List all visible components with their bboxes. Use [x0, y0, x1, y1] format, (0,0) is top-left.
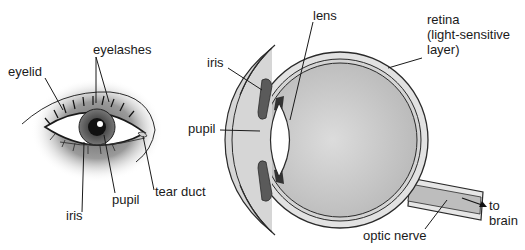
label-eyelashes: eyelashes [93, 42, 152, 57]
label-iris-external: iris [66, 208, 83, 223]
label-optic-nerve: optic nerve [363, 228, 427, 243]
label-pupil-section: pupil [188, 121, 215, 136]
external-eye [22, 57, 163, 212]
label-retina-2: (light-sensitive [427, 27, 510, 42]
label-retina-3: layer) [427, 42, 460, 57]
label-eyelid: eyelid [8, 64, 42, 79]
label-retina-1: retina [427, 12, 460, 27]
pupil-highlight [97, 121, 103, 127]
label-to-brain-2: brain [489, 213, 518, 228]
label-tear-duct: tear duct [155, 184, 206, 199]
pupil [88, 118, 106, 136]
label-to-brain-1: to [489, 198, 500, 213]
label-pupil-external: pupil [112, 192, 139, 207]
label-iris-section: iris [207, 55, 224, 70]
label-lens: lens [313, 8, 337, 23]
